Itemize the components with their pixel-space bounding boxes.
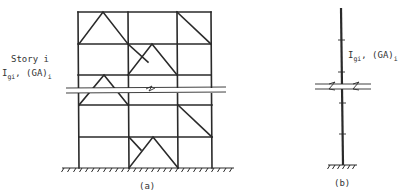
ground-hatch — [134, 168, 137, 172]
ground-hatch — [110, 168, 113, 172]
ground-hatch — [104, 168, 107, 172]
ground-hatch — [338, 165, 341, 169]
ground-hatch — [164, 168, 167, 172]
chevron-brace — [129, 137, 178, 168]
diagonal-brace — [178, 105, 212, 137]
stiffness-label: Igi, (GA)i — [348, 50, 398, 63]
ground-hatch — [140, 168, 143, 172]
ground-hatch — [92, 168, 95, 172]
ground-hatch — [333, 165, 336, 169]
ground-hatch — [182, 168, 185, 172]
break-line — [66, 87, 226, 88]
ground-hatch — [206, 168, 209, 172]
ground-support — [328, 165, 358, 169]
ground-hatch — [116, 168, 119, 172]
ground-hatch — [62, 168, 65, 172]
ground-hatch — [218, 168, 221, 172]
ground-hatch — [224, 168, 227, 172]
ground-hatch — [176, 168, 179, 172]
chevron-brace — [128, 44, 177, 75]
ground-hatch — [80, 168, 83, 172]
caption-a: (a) — [139, 181, 155, 191]
ground-hatch — [152, 168, 155, 172]
diagonal-brace — [177, 12, 211, 44]
ground-hatch — [86, 168, 89, 172]
ground-hatch — [98, 168, 101, 172]
ground-hatch — [188, 168, 191, 172]
stiffness-label: Igi, (GA)i — [2, 68, 52, 81]
equivalent-column — [315, 8, 371, 169]
ground-hatch — [74, 168, 77, 172]
chevron-brace — [79, 12, 128, 44]
ground-hatch — [194, 168, 197, 172]
ground-hatch — [122, 168, 125, 172]
braced-frame — [62, 12, 235, 172]
ground-hatch — [146, 168, 149, 172]
ground-hatch — [158, 168, 161, 172]
ground-hatch — [353, 165, 356, 169]
diagonal-brace — [129, 137, 141, 150]
caption-b: (b) — [334, 178, 350, 188]
ground-hatch — [200, 168, 203, 172]
diagram-canvas: Story i Igi, (GA)i (a) Igi, (GA)i (b) — [0, 0, 399, 196]
ground-hatch — [348, 165, 351, 169]
ground-hatch — [343, 165, 346, 169]
ground-hatch — [170, 168, 173, 172]
ground-hatch — [230, 168, 233, 172]
story-label: Story i — [11, 54, 49, 64]
ground-hatch — [68, 168, 71, 172]
ground-hatch — [328, 165, 331, 169]
ground-support — [62, 168, 235, 172]
